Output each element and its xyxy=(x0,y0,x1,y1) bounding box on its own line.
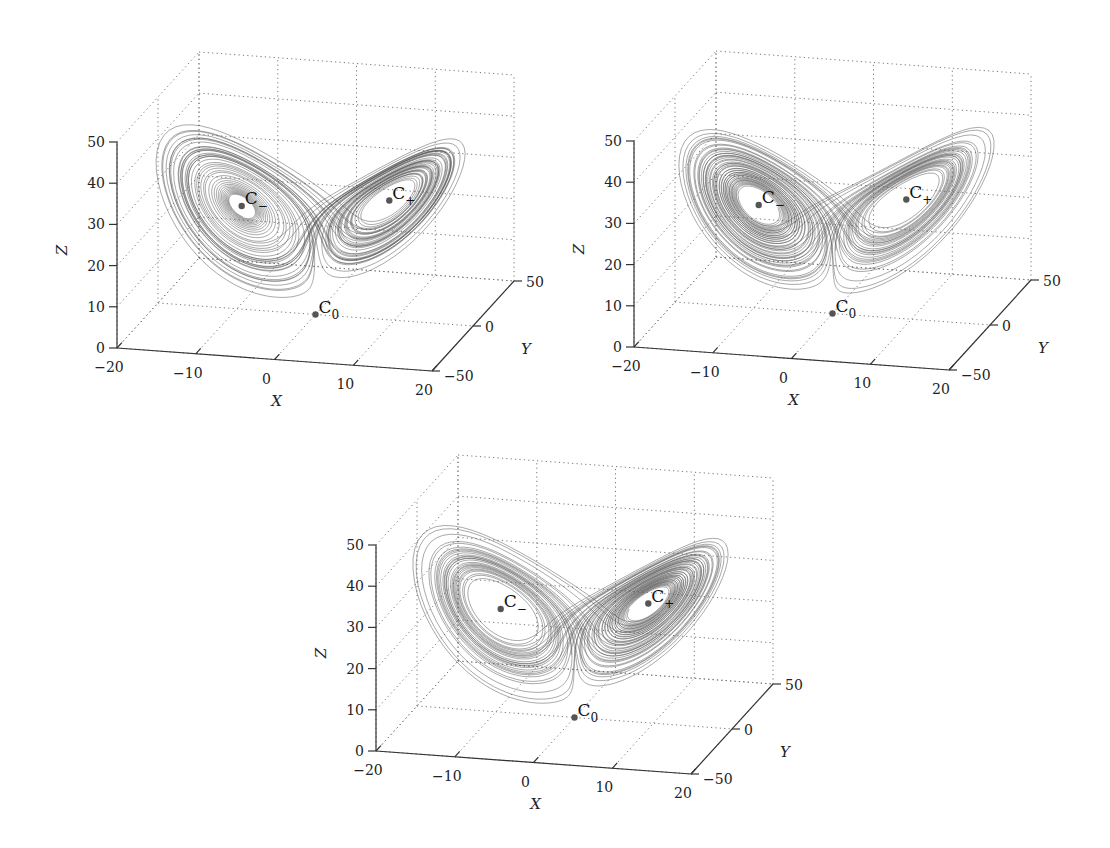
x-tick-label: −20 xyxy=(94,359,124,375)
x-tick-label: 0 xyxy=(521,774,530,790)
attractor-trajectory xyxy=(413,526,728,704)
equilibrium-label-sub: 0 xyxy=(591,711,599,725)
y-tick-label: −50 xyxy=(961,367,991,383)
equilibrium-label-main: C xyxy=(245,188,258,208)
x-tick-label: 20 xyxy=(674,785,692,801)
equilibrium-label-main: C xyxy=(578,700,591,720)
grid-line xyxy=(117,176,199,266)
attractor-trajectory xyxy=(156,125,465,298)
equilibrium-label: C0 xyxy=(836,296,857,321)
lorenz-figure: −20−1001020−5005001020304050XYZC−C+C0 −2… xyxy=(0,0,1110,848)
grid-line xyxy=(353,275,435,365)
y-tick-label: 0 xyxy=(485,319,494,335)
x-tick xyxy=(455,751,460,756)
x-tick xyxy=(792,353,797,358)
z-axis-title: Z xyxy=(53,244,71,256)
equilibrium-label-sub: − xyxy=(258,199,268,213)
panel-top-right: −20−1001020−5005001020304050XYZC−C+C0 xyxy=(570,51,1061,409)
x-axis-title: X xyxy=(529,795,542,813)
x-axis-title: X xyxy=(787,391,800,409)
equilibrium-label-sub: + xyxy=(922,193,932,207)
x-tick xyxy=(376,746,381,751)
x-tick-label: 10 xyxy=(595,779,613,795)
x-tick xyxy=(634,342,639,347)
equilibrium-label-main: C xyxy=(762,187,775,207)
grid-line xyxy=(199,93,514,116)
equilibrium-label-main: C xyxy=(909,182,922,202)
equilibrium-label-sub: − xyxy=(517,602,527,616)
y-axis-title: Y xyxy=(780,743,792,761)
x-tick-label: 20 xyxy=(415,382,433,398)
x-tick xyxy=(275,354,280,359)
equilibrium-label-sub: 0 xyxy=(849,307,857,321)
grid-line xyxy=(458,496,773,519)
z-tick-label: 0 xyxy=(96,340,105,356)
x-tick xyxy=(353,360,358,365)
z-axis-title: Z xyxy=(312,647,330,659)
equilibrium-label: C+ xyxy=(392,183,415,208)
z-tick-label: 0 xyxy=(355,743,364,759)
x-tick xyxy=(713,347,718,352)
z-tick-label: 40 xyxy=(346,578,364,594)
grid-line xyxy=(117,93,199,183)
x-tick xyxy=(870,359,875,364)
attractor-trajectory xyxy=(679,127,994,293)
y-tick-label: 0 xyxy=(1002,318,1011,334)
z-tick-label: 10 xyxy=(604,298,622,314)
x-tick-label: 20 xyxy=(932,381,950,397)
z-tick-label: 50 xyxy=(604,133,622,149)
z-tick-label: 20 xyxy=(87,258,105,274)
grid-line xyxy=(716,92,1031,115)
grid-line xyxy=(455,667,537,757)
x-tick-label: 0 xyxy=(262,371,271,387)
grid-line xyxy=(634,92,716,182)
x-tick-label: −20 xyxy=(611,358,641,374)
y-tick-label: 50 xyxy=(526,274,544,290)
x-tick-label: −10 xyxy=(432,768,462,784)
y-axis-title: Y xyxy=(521,340,533,358)
x-axis-title: X xyxy=(270,392,283,410)
equilibrium-label: C0 xyxy=(578,700,599,725)
equilibrium-label: C− xyxy=(504,591,527,616)
equilibrium-label-sub: + xyxy=(405,194,415,208)
z-tick-label: 20 xyxy=(346,661,364,677)
x-tick xyxy=(612,763,617,768)
equilibrium-label-main: C xyxy=(319,297,332,317)
z-axis-title: Z xyxy=(570,243,588,255)
equilibrium-label-main: C xyxy=(504,591,517,611)
equilibrium-label: C0 xyxy=(319,297,340,322)
z-tick-label: 10 xyxy=(346,702,364,718)
y-tick-label: 0 xyxy=(744,722,753,738)
x-tick-label: −10 xyxy=(690,364,720,380)
z-tick-label: 40 xyxy=(87,175,105,191)
y-tick-label: −50 xyxy=(703,771,733,787)
z-tick-label: 20 xyxy=(604,257,622,273)
z-tick-label: 30 xyxy=(346,619,364,635)
grid-line xyxy=(196,264,278,354)
z-tick-label: 40 xyxy=(604,174,622,190)
equilibrium-label: C+ xyxy=(909,182,932,207)
z-tick-label: 30 xyxy=(604,215,622,231)
x-tick-label: 10 xyxy=(853,375,871,391)
equilibrium-label-sub: + xyxy=(664,597,674,611)
y-tick-label: −50 xyxy=(444,368,474,384)
y-axis-title: Y xyxy=(1038,339,1050,357)
y-tick-label: 50 xyxy=(1043,273,1061,289)
equilibrium-label-main: C xyxy=(836,296,849,316)
x-tick-label: −10 xyxy=(173,365,203,381)
z-tick-label: 50 xyxy=(87,134,105,150)
x-tick xyxy=(691,769,696,774)
z-tick-label: 30 xyxy=(87,216,105,232)
equilibrium-label-main: C xyxy=(651,586,664,606)
z-tick-label: 0 xyxy=(613,339,622,355)
panel-top-left: −20−1001020−5005001020304050XYZC−C+C0 xyxy=(53,52,544,410)
x-tick xyxy=(432,366,437,371)
x-tick-label: 10 xyxy=(336,376,354,392)
panel-bottom-center: −20−1001020−5005001020304050XYZC−C+C0 xyxy=(312,455,803,813)
x-tick xyxy=(949,365,954,370)
y-tick-label: 50 xyxy=(785,677,803,693)
z-tick-label: 50 xyxy=(346,537,364,553)
equilibrium-label-main: C xyxy=(392,183,405,203)
grid-line xyxy=(870,274,952,364)
z-tick-label: 10 xyxy=(87,299,105,315)
